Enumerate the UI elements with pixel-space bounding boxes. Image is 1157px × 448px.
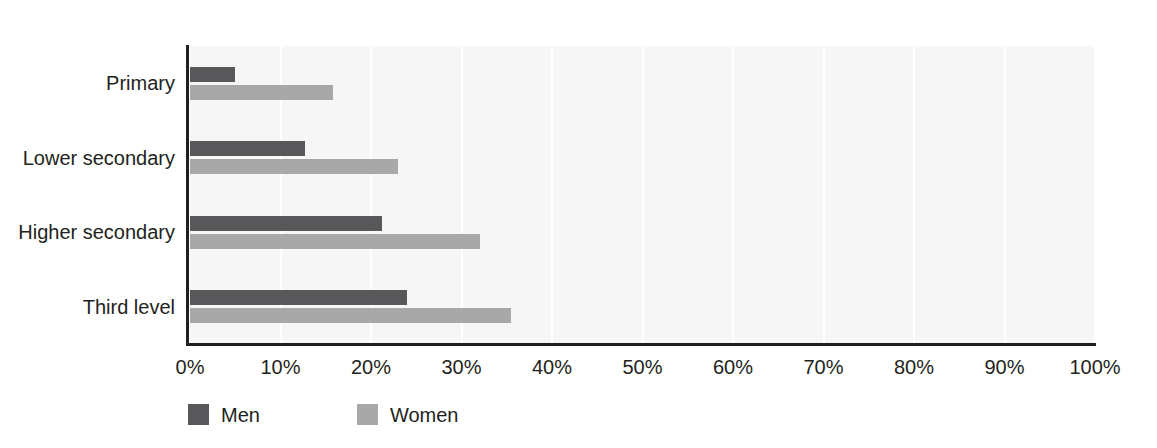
- plot-area: [190, 46, 1095, 344]
- x-axis-line: [186, 343, 1096, 346]
- gridline: [642, 46, 644, 344]
- category-label-third-level: Third level: [0, 297, 175, 317]
- category-label-primary: Primary: [0, 73, 175, 93]
- category-label-lower-secondary: Lower secondary: [0, 148, 175, 168]
- y-axis-line: [186, 45, 189, 345]
- x-tick-label: 50%: [598, 356, 688, 378]
- gridline: [461, 46, 463, 344]
- gridline: [1094, 46, 1096, 344]
- x-tick-label: 0%: [145, 356, 235, 378]
- chart-legend: Men Women: [188, 404, 458, 425]
- legend-label-men: Men: [221, 405, 260, 425]
- bar-women-lower-secondary: [190, 159, 398, 174]
- legend-swatch-men-icon: [188, 404, 209, 425]
- x-tick-label: 30%: [417, 356, 507, 378]
- gridline: [823, 46, 825, 344]
- bar-women-primary: [190, 85, 333, 100]
- bar-chart: PrimaryLower secondaryHigher secondaryTh…: [0, 0, 1157, 448]
- gridline: [1004, 46, 1006, 344]
- x-tick-label: 10%: [236, 356, 326, 378]
- x-tick-label: 100%: [1050, 356, 1140, 378]
- bar-men-higher-secondary: [190, 216, 382, 231]
- gridline: [913, 46, 915, 344]
- x-tick-label: 20%: [326, 356, 416, 378]
- x-tick-label: 60%: [688, 356, 778, 378]
- legend-swatch-women-icon: [357, 404, 378, 425]
- bar-women-third-level: [190, 308, 511, 323]
- gridline: [732, 46, 734, 344]
- gridline: [551, 46, 553, 344]
- x-tick-label: 80%: [869, 356, 959, 378]
- legend-item-women[interactable]: Women: [357, 404, 459, 425]
- bar-men-primary: [190, 67, 235, 82]
- x-tick-label: 70%: [779, 356, 869, 378]
- legend-label-women: Women: [390, 405, 459, 425]
- x-tick-label: 90%: [960, 356, 1050, 378]
- bar-men-lower-secondary: [190, 141, 305, 156]
- bar-women-higher-secondary: [190, 234, 480, 249]
- legend-item-men[interactable]: Men: [188, 404, 260, 425]
- x-tick-label: 40%: [507, 356, 597, 378]
- category-label-higher-secondary: Higher secondary: [0, 222, 175, 242]
- bar-men-third-level: [190, 290, 407, 305]
